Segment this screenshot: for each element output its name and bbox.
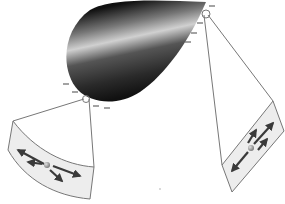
right-panel xyxy=(202,10,284,192)
left-panel xyxy=(8,96,94,200)
pivot-ring xyxy=(202,10,210,18)
test-charge xyxy=(44,162,50,168)
stray-dot xyxy=(159,188,161,190)
test-charge xyxy=(248,145,254,151)
electrostatics-diagram xyxy=(0,0,285,204)
cone-conductor xyxy=(66,0,206,101)
